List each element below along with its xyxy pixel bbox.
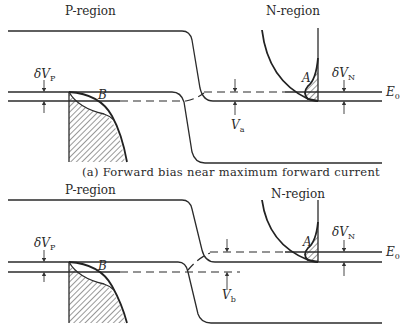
panel-a: P-region N-region E0 B δVP A δVN (8, 4, 400, 179)
upper-band-edge (8, 31, 382, 101)
fermi-junction-transition (188, 253, 210, 270)
p-region-label: P-region (65, 4, 116, 18)
e0-label: E0 (385, 245, 400, 261)
vb-label: Vb (222, 288, 236, 304)
lower-band-edge (8, 92, 382, 163)
lower-band-edge (8, 262, 382, 323)
caption-a: (a) Forward bias near maximum forward cu… (82, 165, 380, 179)
p-region-label: P-region (65, 183, 116, 197)
fermi-junction-transition (186, 93, 204, 101)
delta-vn-label: δVN (332, 66, 355, 82)
upper-band-edge (8, 200, 382, 262)
region-b-label: B (97, 88, 107, 102)
delta-vp-label: δVP (34, 236, 56, 252)
energy-band-diagram: P-region N-region E0 B δVP A δVN (0, 0, 407, 335)
n-region-label: N-region (271, 187, 325, 201)
panel-b: P-region N-region E0 B δVP A δVN (8, 183, 400, 323)
e0-label: E0 (385, 85, 400, 101)
delta-vp-label: δVP (34, 67, 56, 83)
region-a-label: A (302, 235, 312, 249)
region-a-label: A (301, 71, 311, 85)
va-label: Va (231, 118, 245, 134)
delta-vn-label: δVN (332, 225, 355, 241)
n-region-label: N-region (266, 4, 320, 18)
region-b-label: B (97, 259, 107, 273)
